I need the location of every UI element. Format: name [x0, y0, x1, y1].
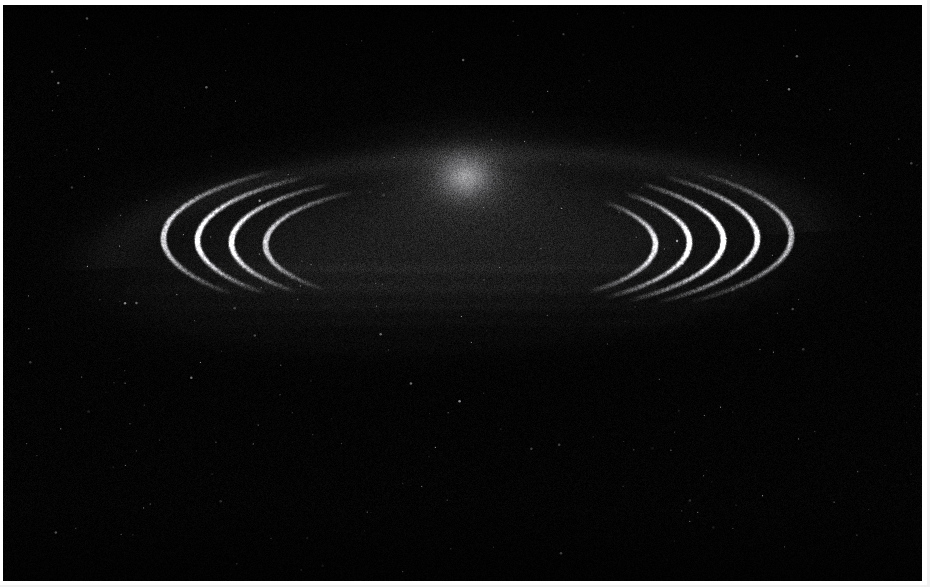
disk-image-canvas [3, 5, 922, 581]
astronomical-image-plate [3, 5, 922, 581]
page-root: bright central core inclined dust disk c… [0, 0, 930, 587]
